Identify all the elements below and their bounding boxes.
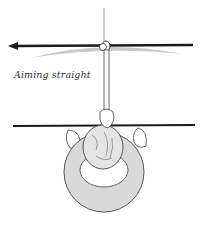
- golf-aim-illustration: Aiming straight: [0, 0, 209, 228]
- club-shaft: [104, 50, 109, 112]
- caption-aiming-straight: Aiming straight: [14, 69, 91, 80]
- golfer-top-view-drawing: [0, 0, 209, 228]
- right-arm: [134, 128, 147, 147]
- arrow-head-icon: [8, 42, 18, 50]
- ball: [100, 44, 107, 51]
- golfer-head: [83, 125, 123, 169]
